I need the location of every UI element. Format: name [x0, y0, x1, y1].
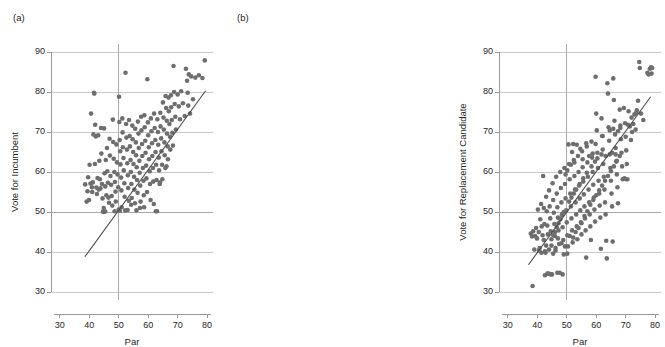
- data-point: [616, 201, 621, 206]
- data-point: [87, 163, 92, 168]
- data-point: [142, 113, 147, 118]
- data-point: [572, 160, 577, 165]
- data-point: [202, 58, 207, 63]
- data-point: [584, 255, 589, 260]
- data-point: [609, 169, 614, 174]
- data-point: [626, 109, 631, 114]
- data-point: [553, 246, 558, 251]
- x-tick-label-60: 60: [134, 320, 162, 330]
- data-point: [159, 136, 164, 141]
- data-point: [93, 123, 98, 128]
- y-tick-label-70: 70: [465, 126, 493, 136]
- data-point: [118, 149, 123, 154]
- data-point: [171, 143, 176, 148]
- data-point: [105, 146, 110, 151]
- data-point: [158, 180, 163, 185]
- data-point: [154, 209, 159, 214]
- data-point: [622, 106, 627, 111]
- data-point: [603, 212, 608, 217]
- data-point: [161, 100, 166, 105]
- data-point: [556, 236, 561, 241]
- data-point: [129, 182, 134, 187]
- data-point: [589, 238, 594, 243]
- data-point: [146, 133, 151, 138]
- data-point: [563, 182, 568, 187]
- data-point: [152, 202, 157, 207]
- data-point: [586, 175, 591, 180]
- data-point: [536, 207, 541, 212]
- data-point: [91, 180, 96, 185]
- data-point: [133, 127, 138, 132]
- y-tick-label-90: 90: [465, 46, 493, 56]
- y-tick-label-30: 30: [17, 286, 45, 296]
- data-point: [612, 164, 617, 169]
- data-point: [162, 127, 167, 132]
- data-point: [128, 144, 133, 149]
- data-point: [560, 272, 565, 277]
- data-point: [566, 142, 571, 147]
- data-point: [156, 143, 161, 148]
- y-axis-label: Vote for Replacement Candidate: [457, 103, 468, 240]
- plot-area-b: 30405060708090304050607080ParVote for Re…: [499, 44, 661, 300]
- data-point: [535, 236, 540, 241]
- y-axis-label: Vote for Incumbent: [9, 132, 20, 212]
- x-tick-label-60: 60: [582, 320, 610, 330]
- data-point: [582, 214, 587, 219]
- data-point: [117, 120, 122, 125]
- data-point: [113, 189, 118, 194]
- data-point: [98, 177, 103, 182]
- data-point: [633, 127, 638, 132]
- data-point: [138, 199, 143, 204]
- data-point: [119, 188, 124, 193]
- y-tick-label-80: 80: [465, 86, 493, 96]
- y-tick-label-40: 40: [465, 246, 493, 256]
- data-point: [156, 130, 161, 135]
- data-point: [548, 216, 553, 221]
- data-point: [173, 115, 178, 120]
- data-point: [166, 157, 171, 162]
- data-point: [609, 191, 614, 196]
- data-point: [541, 174, 546, 179]
- data-point: [605, 81, 610, 86]
- data-point: [179, 89, 184, 94]
- data-point: [127, 118, 132, 123]
- data-point: [92, 91, 97, 96]
- data-point: [594, 193, 599, 198]
- data-point: [593, 142, 598, 147]
- data-point: [559, 200, 564, 205]
- data-point: [536, 230, 541, 235]
- data-point: [169, 105, 174, 110]
- data-point: [121, 156, 126, 161]
- data-point: [620, 164, 625, 169]
- data-point: [126, 186, 131, 191]
- data-point: [135, 178, 140, 183]
- panel-b-tag: (b): [237, 12, 249, 23]
- data-point: [181, 101, 186, 106]
- data-point: [135, 191, 140, 196]
- data-point: [102, 126, 107, 131]
- data-point: [581, 176, 586, 181]
- data-point: [540, 233, 545, 238]
- data-point: [576, 154, 581, 159]
- y-tick-label-90: 90: [17, 46, 45, 56]
- data-point: [603, 200, 608, 205]
- data-point: [186, 103, 191, 108]
- panel-b: (b) 30405060708090304050607080ParVote fo…: [224, 0, 449, 340]
- data-point: [534, 226, 539, 231]
- data-point: [595, 151, 600, 156]
- data-point: [150, 154, 155, 159]
- data-point: [569, 216, 574, 221]
- data-point: [144, 163, 149, 168]
- data-point: [558, 170, 563, 175]
- data-point: [144, 176, 149, 181]
- data-point: [545, 223, 550, 228]
- data-point: [120, 130, 125, 135]
- data-point: [574, 187, 579, 192]
- data-point: [172, 102, 177, 107]
- data-point: [108, 174, 113, 179]
- data-point: [142, 125, 147, 130]
- data-point: [549, 272, 554, 277]
- data-point: [584, 141, 589, 146]
- data-point: [134, 140, 139, 145]
- data-point: [85, 189, 90, 194]
